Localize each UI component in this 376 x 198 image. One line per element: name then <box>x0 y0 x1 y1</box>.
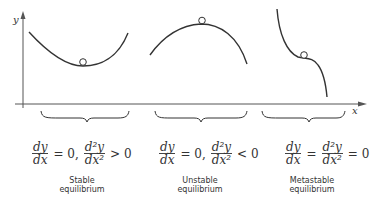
x-axis-arrow-icon <box>358 102 367 107</box>
unstable-first-derivative: dy dx <box>159 141 175 166</box>
metastable-second-derivative: d²y dx² <box>322 141 343 166</box>
unstable-brace <box>155 111 247 122</box>
stable-curve <box>29 32 128 66</box>
metastable-brace <box>262 111 345 122</box>
stable-first-derivative: dy dx <box>32 141 48 166</box>
stable-brace <box>41 111 129 122</box>
unstable-condition: dy dx = 0, d²y dx² < 0 <box>157 141 262 166</box>
y-axis-arrow-icon <box>21 11 26 19</box>
unstable-label: Unstable equilibrium <box>160 176 240 194</box>
unstable-second-derivative: d²y dx² <box>211 141 232 166</box>
unstable-curve <box>150 24 247 64</box>
stable-condition: dy dx = 0, d²y dx² > 0 <box>30 141 135 166</box>
unstable-ball-icon <box>199 17 206 24</box>
y-axis-label: y <box>13 14 19 25</box>
metastable-label: Metastable equilibrium <box>272 176 352 194</box>
equilibrium-diagram <box>0 0 376 198</box>
metastable-condition: dy dx = d²y dx² = 0 <box>283 141 372 166</box>
metastable-first-derivative: dy dx <box>285 141 301 166</box>
metastable-ball-icon <box>301 52 308 59</box>
stable-second-derivative: d²y dx² <box>84 141 105 166</box>
stable-ball-icon <box>80 59 87 66</box>
stable-label: Stable equilibrium <box>42 176 122 194</box>
x-axis-label: x <box>352 105 358 116</box>
